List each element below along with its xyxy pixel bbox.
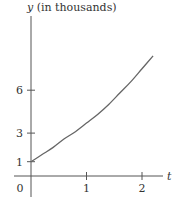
chart: 121360ty (in thousands) — [0, 0, 183, 200]
x-tick-label: 1 — [83, 182, 90, 195]
y-tick-label: 1 — [16, 156, 23, 169]
x-tick-label: 2 — [139, 182, 146, 195]
y-axis-label-units: (in thousands) — [33, 1, 116, 14]
y-tick-label: 6 — [16, 84, 23, 97]
y-axis-label: y (in thousands) — [26, 1, 117, 14]
series-line-y — [31, 56, 153, 162]
x-axis-label: t — [167, 170, 172, 183]
origin-label: 0 — [17, 182, 24, 195]
y-tick-label: 3 — [16, 127, 23, 140]
